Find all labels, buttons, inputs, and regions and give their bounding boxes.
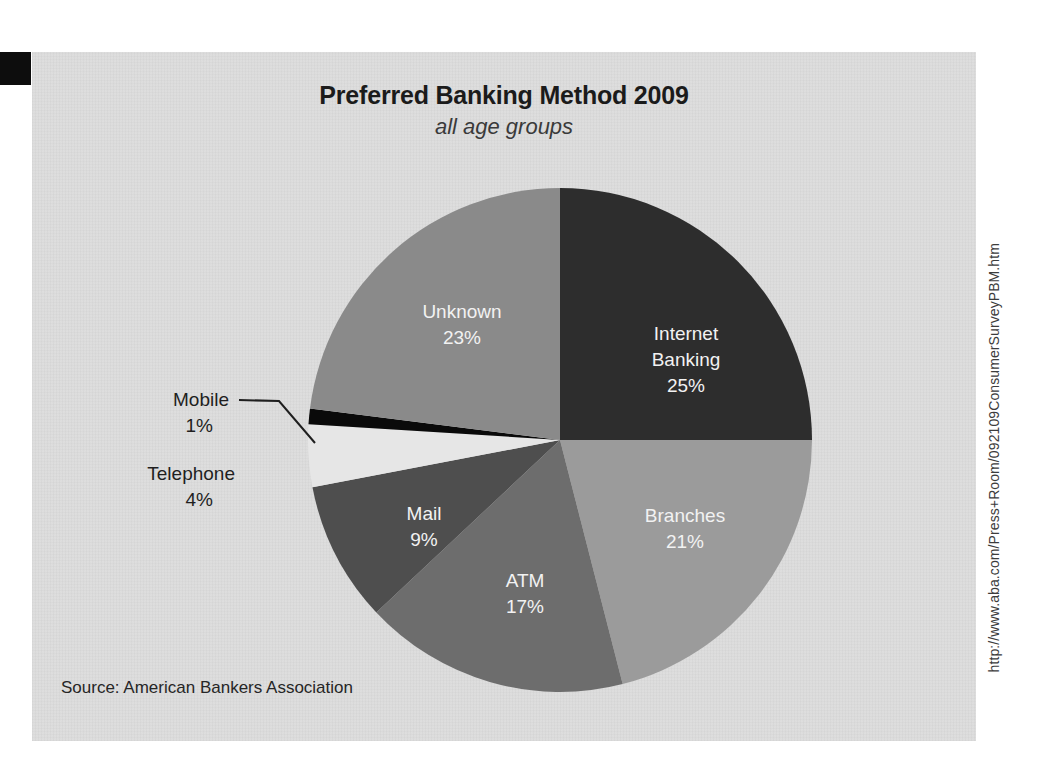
slice-label-internet-banking-line1: Internet (654, 323, 719, 344)
page-canvas: Preferred Banking Method 2009 all age gr… (0, 0, 1038, 783)
slice-value-mail: 9% (410, 529, 438, 550)
slice-label-internet-banking-line2: Banking (652, 349, 721, 370)
mobile-leader-line (239, 400, 315, 443)
slice-label-atm: ATM (506, 570, 545, 591)
slice-value-unknown: 23% (443, 327, 481, 348)
slice-label-branches: Branches (645, 505, 725, 526)
slice-value-telephone: 4% (186, 489, 214, 510)
slice-value-branches: 21% (666, 531, 704, 552)
slice-label-mobile: Mobile (173, 389, 229, 410)
chart-panel: Preferred Banking Method 2009 all age gr… (32, 52, 976, 741)
scan-marker-block (0, 52, 31, 85)
slice-label-telephone: Telephone (147, 463, 235, 484)
source-url-vertical: http://www.aba.com/Press+Room/092109Cons… (986, 243, 1002, 672)
pie-slice-internet-banking[interactable] (560, 188, 812, 440)
source-note: Source: American Bankers Association (61, 678, 353, 698)
slice-label-mail: Mail (407, 503, 442, 524)
pie-chart: Internet Banking 25% Unknown 23% Branche… (32, 52, 976, 741)
slice-value-internet-banking: 25% (667, 375, 705, 396)
slice-label-unknown: Unknown (422, 301, 501, 322)
slice-value-atm: 17% (506, 596, 544, 617)
slice-value-mobile: 1% (186, 415, 214, 436)
pie-chart-svg: Internet Banking 25% Unknown 23% Branche… (32, 52, 976, 741)
